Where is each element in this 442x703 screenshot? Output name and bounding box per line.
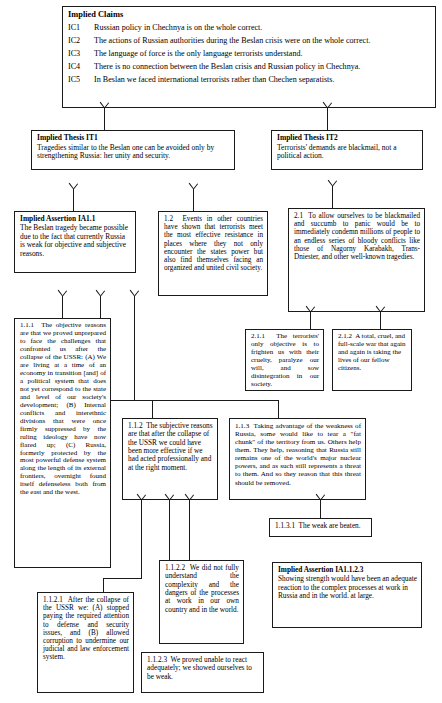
edge-ia11-to-it1	[73, 189, 74, 211]
it1-title: Implied Thesis IT1	[37, 134, 230, 143]
node-premise-1-1-1[interactable]: 1.1.1 The objective reasons are that we …	[14, 318, 111, 568]
claim-key-ic4: IC4	[68, 60, 94, 73]
list-item: IC4 There is no connection between the B…	[68, 60, 431, 73]
node-implied-thesis-it1[interactable]: Implied Thesis IT1 Tragedies similar to …	[31, 130, 235, 170]
node-implied-assertion-ia11[interactable]: Implied Assertion IA1.1 The Beslan trage…	[14, 211, 136, 273]
node-premise-1-1-3-1[interactable]: 1.1.3.1 The weak are beaten.	[269, 518, 372, 537]
list-item: IC1 Russian policy in Chechnya is on the…	[68, 21, 431, 34]
edge-111-to-ia11	[62, 296, 63, 318]
ia1123-title: Implied Assertion IA1.1.2.3	[278, 566, 417, 574]
edge-it1-to-claims	[104, 108, 105, 130]
node-1131-label: 1.1.3.1	[275, 521, 295, 530]
node-implied-claims[interactable]: Implied Claims IC1 Russian policy in Che…	[62, 6, 436, 108]
ia1123-text: Showing strength would have been an adeq…	[278, 575, 417, 600]
edge-113-riser	[278, 400, 279, 418]
edge-21-to-it2	[332, 186, 333, 208]
list-item: IC3 The language of force is the only la…	[68, 47, 431, 60]
node-113-text: Taking advantage of the weakness of Russ…	[235, 422, 361, 487]
edge-1121-riser	[103, 578, 104, 592]
node-112-text: The subjective reasons are that after th…	[128, 421, 213, 472]
node-1121-label: 1.1.2.1	[43, 596, 63, 604]
claim-text-ic1: Russian policy in Chechnya is on the who…	[94, 21, 431, 34]
edge-1121-to-112	[141, 500, 142, 579]
list-item: IC2 The actions of Russian authorities d…	[68, 34, 431, 47]
node-premise-1-1-2-2[interactable]: 1.1.2.2 We did not fully understand the …	[159, 560, 244, 644]
it2-text: Terrorists' demands are blackmail, not a…	[277, 144, 418, 161]
node-premise-1-1-3[interactable]: 1.1.3 Taking advantage of the weakness o…	[229, 418, 366, 500]
node-premise-1-2[interactable]: 1.2 Events in other countries have shown…	[158, 211, 268, 296]
node-111-label: 1.1.1	[20, 321, 34, 329]
claim-key-ic3: IC3	[68, 47, 94, 60]
claim-key-ic2: IC2	[68, 34, 94, 47]
edge-113-to-ia11	[134, 296, 135, 401]
claim-text-ic4: There is no connection between the Besla…	[94, 60, 431, 73]
claim-key-ic1: IC1	[68, 21, 94, 34]
node-212-label: 2.1.2	[338, 332, 352, 340]
edge-1122-to-112	[189, 500, 190, 560]
node-12-label: 1.2	[164, 215, 173, 223]
edge-211-to-21	[310, 312, 311, 329]
claim-text-ic5: In Beslan we faced international terrori…	[94, 73, 431, 86]
node-211-text: The terrorists' only objective is to fri…	[251, 332, 319, 388]
ia11-title: Implied Assertion IA1.1	[20, 215, 131, 223]
node-1121-text: After the collapse of the USSR we: (A) s…	[43, 596, 129, 661]
edge-12-to-it1	[193, 189, 194, 211]
node-1131-text: The weak are beaten.	[299, 521, 361, 530]
argument-diagram: Implied Claims IC1 Russian policy in Che…	[0, 0, 442, 703]
edge-212-to-21	[380, 312, 381, 329]
claim-text-ic3: The language of force is the only langua…	[94, 47, 431, 60]
node-premise-1-1-2[interactable]: 1.1.2 The subjective reasons are that af…	[122, 418, 218, 500]
node-21-text: To allow ourselves to be blackmailed and…	[294, 212, 420, 261]
edge-112-riser	[152, 400, 153, 418]
it1-text: Tragedies similar to the Beslan one can …	[37, 144, 230, 161]
list-item: IC5 In Beslan we faced international ter…	[68, 73, 431, 86]
edge-1131-to-113	[320, 500, 321, 518]
claim-key-ic5: IC5	[68, 73, 94, 86]
ia11-text: The Beslan tragedy became possible due t…	[20, 224, 131, 258]
it2-title: Implied Thesis IT2	[277, 134, 418, 143]
node-211-label: 2.1.1	[251, 332, 265, 340]
node-12-text: Events in other countries have shown tha…	[164, 215, 263, 272]
node-premise-2-1-2[interactable]: 2.1.2 A total, cruel, and full-scale war…	[332, 329, 412, 391]
implied-claims-heading: Implied Claims	[68, 10, 431, 19]
node-111-text: The objective reasons are that we proved…	[20, 321, 106, 496]
node-21-label: 2.1	[294, 212, 303, 220]
node-1122-text: We did not fully understand the complexi…	[165, 563, 239, 614]
node-implied-assertion-ia1123[interactable]: Implied Assertion IA1.1.2.3 Showing stre…	[272, 562, 422, 628]
node-113-label: 1.1.3	[235, 422, 249, 430]
node-premise-2-1-1[interactable]: 2.1.1 The terrorists' only objective is …	[245, 329, 324, 391]
node-implied-thesis-it2[interactable]: Implied Thesis IT2 Terrorists' demands a…	[271, 130, 423, 170]
claim-text-ic2: The actions of Russian authorities durin…	[94, 34, 431, 47]
node-premise-2-1[interactable]: 2.1 To allow ourselves to be blackmailed…	[288, 208, 425, 312]
node-premise-1-1-2-3[interactable]: 1.1.2.3 We proved unable to react adequa…	[141, 652, 264, 693]
edge-113-horizontal	[134, 400, 279, 401]
edge-1121-horizontal	[103, 578, 141, 579]
node-premise-1-1-2-1[interactable]: 1.1.2.1 After the collapse of the USSR w…	[37, 592, 134, 693]
edge-it2-to-claims	[327, 108, 328, 130]
